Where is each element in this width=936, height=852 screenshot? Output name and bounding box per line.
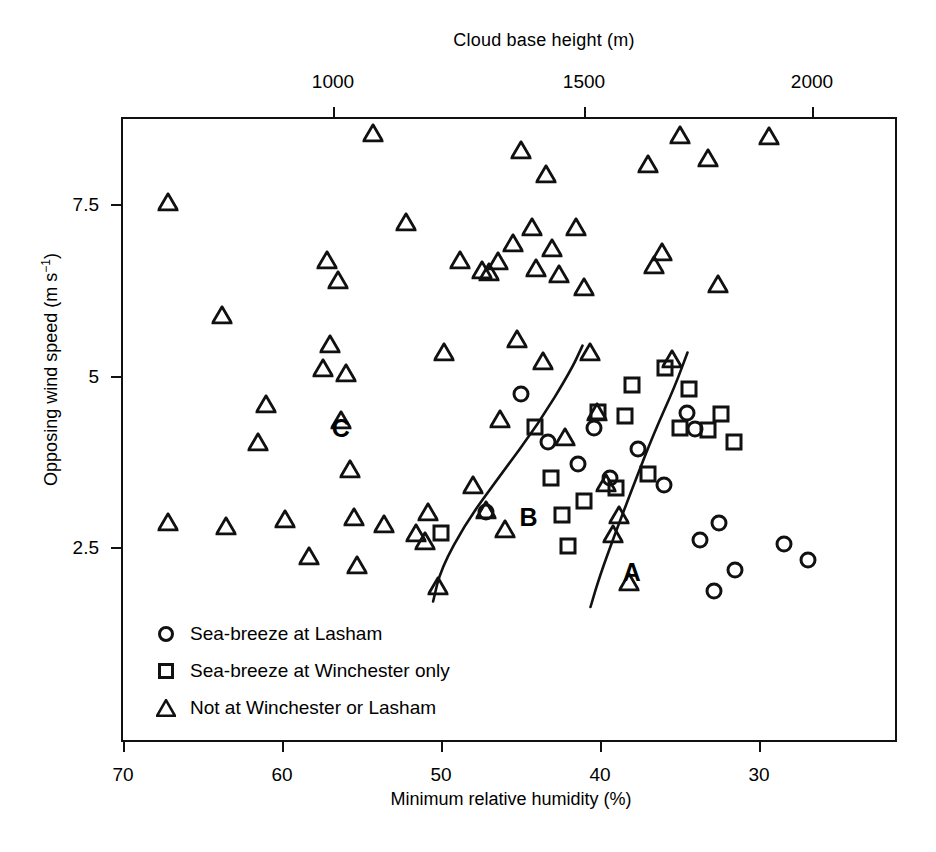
y-axis-title-text: Opposing wind speed (m s−1) — [41, 253, 61, 486]
triangle-marker-icon — [151, 699, 181, 717]
circle-marker-icon — [151, 626, 181, 642]
top-axis-title: Cloud base height (m) — [0, 30, 936, 51]
data-point-circle — [706, 582, 723, 599]
y-axis-tick — [111, 547, 122, 549]
data-point-triangle — [758, 127, 779, 146]
data-point-square — [671, 419, 688, 436]
x-axis-tick-label: 70 — [112, 764, 133, 786]
data-point-triangle — [415, 532, 436, 551]
data-point-square — [700, 422, 717, 439]
legend-label: Sea-breeze at Lasham — [181, 623, 382, 645]
data-point-triangle — [319, 334, 340, 353]
x-axis-tick-label: 40 — [589, 764, 610, 786]
region-label-c: C — [332, 413, 350, 442]
data-point-circle — [692, 531, 709, 548]
data-point-triangle — [475, 501, 496, 520]
y-axis-tick — [111, 204, 122, 206]
data-point-circle — [630, 440, 647, 457]
data-point-square — [712, 406, 729, 423]
data-point-triangle — [211, 305, 232, 324]
data-point-triangle — [362, 123, 383, 142]
top-axis-tick-label: 2000 — [791, 71, 833, 93]
data-point-triangle — [609, 506, 630, 525]
data-point-triangle — [248, 432, 269, 451]
top-axis-tick — [333, 107, 335, 118]
data-point-triangle — [548, 264, 569, 283]
x-axis-tick — [441, 741, 443, 752]
data-point-triangle — [488, 252, 509, 271]
x-axis-title-text: Minimum relative humidity (%) — [390, 789, 631, 809]
data-point-circle — [800, 552, 817, 569]
data-point-triangle — [535, 165, 556, 184]
data-point-square — [542, 470, 559, 487]
x-axis-tick-label: 50 — [430, 764, 451, 786]
y-axis-tick-label: 2.5 — [73, 537, 99, 559]
y-axis-title: Opposing wind speed (m s−1) — [39, 160, 62, 580]
data-point-triangle — [652, 242, 673, 261]
data-point-triangle — [707, 274, 728, 293]
data-point-triangle — [373, 514, 394, 533]
data-point-triangle — [346, 556, 367, 575]
data-point-triangle — [299, 547, 320, 566]
data-point-triangle — [335, 364, 356, 383]
legend-label: Not at Winchester or Lasham — [181, 697, 436, 719]
top-axis-tick-label: 1500 — [563, 71, 605, 93]
y-axis-tick — [111, 376, 122, 378]
data-point-circle — [727, 561, 744, 578]
data-point-circle — [585, 419, 602, 436]
x-axis-tick — [600, 741, 602, 752]
data-point-triangle — [510, 141, 531, 160]
data-point-triangle — [526, 259, 547, 278]
data-point-square — [681, 380, 698, 397]
data-point-square — [560, 537, 577, 554]
data-point-triangle — [532, 352, 553, 371]
x-axis-tick-label: 30 — [748, 764, 769, 786]
data-point-square — [639, 465, 656, 482]
data-point-triangle — [343, 508, 364, 527]
data-point-square — [623, 376, 640, 393]
data-point-triangle — [427, 576, 448, 595]
data-point-triangle — [596, 473, 617, 492]
data-point-circle — [539, 433, 556, 450]
data-point-triangle — [418, 503, 439, 522]
data-point-triangle — [602, 525, 623, 544]
square-marker-icon — [151, 663, 181, 679]
x-axis-tick — [759, 741, 761, 752]
data-point-square — [725, 433, 742, 450]
data-point-triangle — [462, 475, 483, 494]
data-point-triangle — [698, 149, 719, 168]
data-point-square — [553, 507, 570, 524]
data-point-circle — [569, 455, 586, 472]
top-axis-tick — [812, 107, 814, 118]
data-point-triangle — [489, 410, 510, 429]
data-point-triangle — [434, 343, 455, 362]
data-point-triangle — [316, 250, 337, 269]
data-point-triangle — [521, 217, 542, 236]
legend: Sea-breeze at Lasham Sea-breeze at Winch… — [151, 615, 450, 726]
data-point-triangle — [340, 460, 361, 479]
data-point-triangle — [450, 250, 471, 269]
x-axis-tick — [282, 741, 284, 752]
y-axis-tick-label: 5 — [88, 366, 99, 388]
data-point-triangle — [157, 512, 178, 531]
data-point-triangle — [396, 213, 417, 232]
data-point-triangle — [494, 519, 515, 538]
top-axis-tick-label: 1000 — [312, 71, 354, 93]
data-point-triangle — [669, 126, 690, 145]
legend-label: Sea-breeze at Winchester only — [181, 660, 450, 682]
data-point-triangle — [542, 238, 563, 257]
data-point-triangle — [555, 427, 576, 446]
data-point-triangle — [256, 394, 277, 413]
x-axis-tick — [123, 741, 125, 752]
data-point-triangle — [580, 343, 601, 362]
data-point-triangle — [157, 192, 178, 211]
curve-B-C — [433, 346, 582, 602]
data-point-circle — [711, 515, 728, 532]
data-point-triangle — [216, 517, 237, 536]
top-axis-title-text: Cloud base height (m) — [453, 30, 634, 50]
data-point-triangle — [502, 233, 523, 252]
chart-root: Cloud base height (m) Opposing wind spee… — [0, 0, 936, 852]
region-label-a: A — [623, 558, 641, 587]
data-point-circle — [655, 476, 672, 493]
legend-item-neither: Not at Winchester or Lasham — [151, 689, 450, 726]
